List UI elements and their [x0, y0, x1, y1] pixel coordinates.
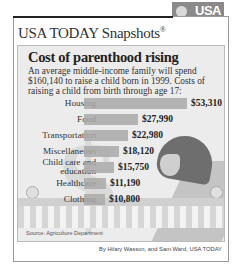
bar [84, 130, 128, 141]
bar-row: Housing$53,310 [18, 98, 224, 112]
bar-row: Food$27,990 [18, 114, 224, 128]
source-note: Source: Agriculture Department [26, 230, 103, 236]
chart-panel: $ Cost of parenthood rising An average m… [17, 45, 225, 242]
bar-value: $53,310 [191, 98, 222, 108]
bar-value: $15,750 [118, 162, 149, 172]
chart-subtitle: An average middle-income family will spe… [28, 66, 224, 96]
bar-row: Child care and education$15,750 [18, 162, 224, 176]
bar-value: $27,990 [142, 114, 173, 124]
bar-value: $22,980 [132, 130, 163, 140]
header-rule [13, 16, 173, 18]
bar-row: Transportation$22,980 [18, 130, 224, 144]
bar [84, 114, 138, 125]
byline: By Hilary Wasson, and Sam Ward, USA TODA… [90, 246, 222, 252]
chart-title: Cost of parenthood rising [28, 49, 179, 66]
crib-slats [18, 206, 224, 228]
bar [84, 178, 106, 189]
bar-row: Healthcare$11,190 [18, 178, 224, 192]
brand-title: USA TODAY Snapshots® [18, 25, 166, 42]
bar-value: $10,800 [109, 194, 140, 204]
bar [84, 162, 114, 173]
bar-value: $11,190 [110, 178, 140, 188]
bar-value: $18,120 [123, 146, 154, 156]
bar [84, 194, 105, 205]
bar [84, 98, 187, 109]
bar-row: Clothing$10,800 [18, 194, 224, 208]
bar [84, 146, 119, 157]
